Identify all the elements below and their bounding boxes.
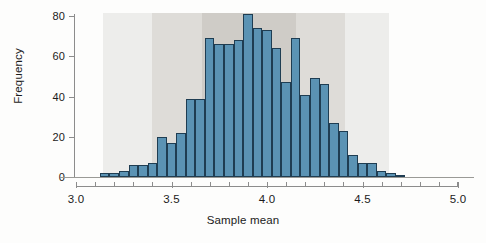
x-axis-tick <box>76 182 77 188</box>
y-axis-tick <box>69 16 74 17</box>
x-axis-minor-tick <box>382 182 383 186</box>
histogram-bar <box>176 133 186 177</box>
x-axis-tick <box>458 182 459 188</box>
y-axis-tick-label: 40 <box>31 92 65 103</box>
y-axis-tick <box>69 137 74 138</box>
x-axis-tick-label: 3.5 <box>147 193 197 205</box>
x-axis-minor-tick <box>305 182 306 186</box>
x-axis-minor-tick <box>420 182 421 186</box>
histogram-bar <box>300 95 310 178</box>
x-axis-minor-tick <box>95 182 96 186</box>
x-axis-tick-label: 4.0 <box>242 193 292 205</box>
histogram-bar <box>129 165 139 177</box>
histogram-bar <box>281 82 291 177</box>
x-axis-minor-tick <box>229 182 230 186</box>
histogram-bar <box>205 38 215 177</box>
x-axis-minor-tick <box>210 182 211 186</box>
y-axis-title: Frequency <box>12 16 24 136</box>
x-axis-minor-tick <box>114 182 115 186</box>
x-axis-minor-tick <box>191 182 192 186</box>
histogram-bar <box>253 28 263 177</box>
histogram-bar <box>148 163 158 177</box>
histogram-bar <box>157 137 167 177</box>
histogram-bar <box>167 143 177 177</box>
x-axis-tick-label: 3.0 <box>51 193 101 205</box>
x-axis-minor-tick <box>286 182 287 186</box>
histogram-figure: 020406080 Frequency 3.03.54.04.55.0 Samp… <box>0 0 486 243</box>
histogram-bar <box>138 165 148 177</box>
y-axis-tick <box>69 97 74 98</box>
y-axis-line <box>74 14 75 177</box>
histogram-bar <box>243 14 253 177</box>
x-axis-tick-label: 4.5 <box>338 193 388 205</box>
x-axis-minor-tick <box>248 182 249 186</box>
y-axis-tick-label: 20 <box>31 132 65 143</box>
x-axis-minor-tick <box>133 182 134 186</box>
plot-area: 020406080 Frequency 3.03.54.04.55.0 Samp… <box>0 0 486 243</box>
x-axis-minor-tick <box>343 182 344 186</box>
x-axis-line <box>60 177 474 178</box>
histogram-bar <box>339 131 349 177</box>
histogram-bar <box>214 44 224 177</box>
histogram-bar <box>272 48 282 177</box>
histogram-bar <box>262 30 272 177</box>
histogram-bar <box>310 78 320 177</box>
histogram-bar <box>234 40 244 177</box>
histogram-bar <box>186 99 196 177</box>
histogram-bar <box>358 163 368 177</box>
histogram-bar <box>367 163 377 177</box>
histogram-bar <box>329 123 339 177</box>
y-axis-tick-label: 60 <box>31 51 65 62</box>
y-axis-tick-label: 80 <box>31 11 65 22</box>
x-axis-title: Sample mean <box>0 214 486 226</box>
x-axis-tick <box>363 182 364 188</box>
histogram-bar <box>348 155 358 177</box>
x-axis-minor-tick <box>324 182 325 186</box>
histogram-bar <box>320 84 330 177</box>
x-axis-minor-tick <box>439 182 440 186</box>
histogram-bar <box>224 44 234 177</box>
x-axis-tick <box>172 182 173 188</box>
histogram-bar <box>291 38 301 177</box>
x-axis-tick <box>267 182 268 188</box>
x-axis-tick-label: 5.0 <box>433 193 483 205</box>
y-axis-tick <box>69 56 74 57</box>
histogram-bar <box>195 99 205 177</box>
histogram-bars <box>0 0 486 177</box>
x-axis-minor-tick <box>152 182 153 186</box>
x-axis-minor-tick <box>401 182 402 186</box>
